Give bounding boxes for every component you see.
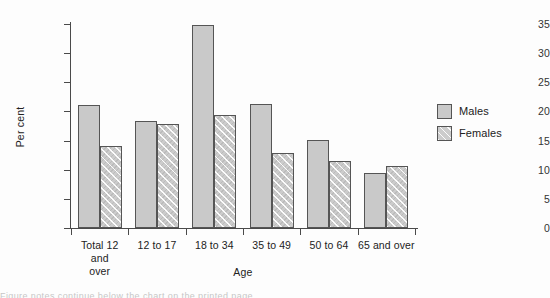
y-tick-mark	[64, 111, 70, 112]
x-axis-group-label-line: over	[71, 265, 128, 278]
x-axis-line	[70, 228, 418, 229]
chart-legend: MalesFemales	[437, 100, 502, 144]
y-tick-mark	[64, 170, 70, 171]
legend-swatch-icon	[437, 104, 452, 119]
y-tick-label: 0	[492, 222, 550, 234]
y-tick-label: 25	[492, 76, 550, 88]
y-tick-mark	[64, 24, 70, 25]
x-axis-group-label: Total 12 andover	[71, 239, 128, 278]
bar-males-65-and-over	[364, 173, 386, 228]
x-tick-mark	[300, 229, 301, 235]
y-tick-mark	[64, 141, 70, 142]
y-tick-label: 10	[492, 164, 550, 176]
y-tick-mark	[64, 53, 70, 54]
x-tick-mark	[415, 229, 416, 235]
legend-label: Females	[459, 127, 502, 139]
bar-males-total-12-and-over	[78, 105, 100, 228]
legend-swatch-icon	[437, 126, 452, 141]
x-axis-group-label-line: 12 to 17	[128, 239, 185, 252]
plot-area	[71, 24, 415, 228]
x-tick-mark	[243, 229, 244, 235]
y-tick-label: 5	[492, 193, 550, 205]
x-tick-mark	[128, 229, 129, 235]
x-axis-group-label: 12 to 17	[128, 239, 185, 252]
bar-females-12-to-17	[157, 124, 179, 228]
x-axis-group-label: 65 and over	[358, 239, 415, 252]
x-tick-mark	[358, 229, 359, 235]
x-tick-mark	[186, 229, 187, 235]
y-tick-mark	[64, 82, 70, 83]
x-axis-group-label: 35 to 49	[243, 239, 300, 252]
cut-off-body-text: Figure notes continue below the chart on…	[0, 291, 550, 298]
chart-figure: 05101520253035 Per cent Age Total 12 and…	[0, 0, 550, 298]
legend-item-males[interactable]: Males	[437, 100, 502, 122]
x-axis-group-label-line: Total 12 and	[71, 239, 128, 265]
x-axis-group-label-line: 18 to 34	[186, 239, 243, 252]
x-axis-group-label-line: 65 and over	[358, 239, 415, 252]
x-axis-group-label-line: 50 to 64	[300, 239, 357, 252]
x-axis-group-label-line: 35 to 49	[243, 239, 300, 252]
y-axis-title: Per cent	[14, 92, 26, 162]
y-tick-label: 30	[492, 47, 550, 59]
bar-females-total-12-and-over	[100, 146, 122, 228]
bar-females-50-to-64	[329, 161, 351, 228]
x-axis-group-label: 18 to 34	[186, 239, 243, 252]
bar-males-35-to-49	[250, 104, 272, 228]
x-axis-group-label: 50 to 64	[300, 239, 357, 252]
y-tick-mark	[64, 228, 70, 229]
legend-item-females[interactable]: Females	[437, 122, 502, 144]
bar-females-65-and-over	[386, 166, 408, 228]
y-tick-mark	[64, 199, 70, 200]
bar-females-18-to-34	[214, 115, 236, 228]
x-tick-mark	[71, 229, 72, 235]
bar-males-12-to-17	[135, 121, 157, 228]
bar-females-35-to-49	[272, 153, 294, 228]
legend-label: Males	[459, 105, 489, 117]
y-tick-label: 35	[492, 18, 550, 30]
bar-males-50-to-64	[307, 140, 329, 228]
bar-males-18-to-34	[192, 25, 214, 228]
